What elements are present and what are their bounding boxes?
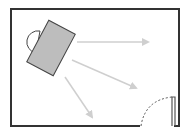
door-panel xyxy=(172,97,175,126)
arrow-diagonal xyxy=(72,60,136,88)
floor-plan-diagram xyxy=(0,0,191,134)
room-walls xyxy=(11,9,179,126)
arrow-down xyxy=(65,77,92,117)
desk-icon xyxy=(27,20,76,76)
door-swing-arc xyxy=(141,97,172,126)
